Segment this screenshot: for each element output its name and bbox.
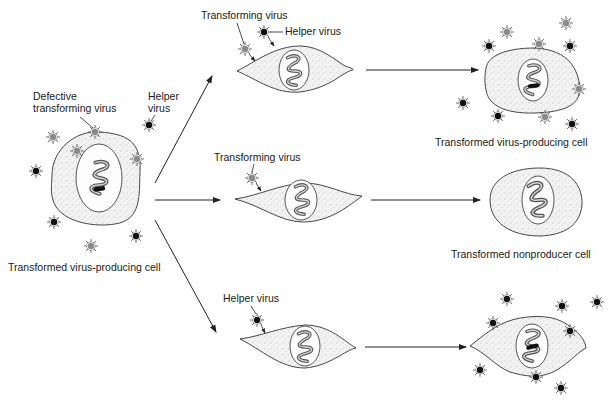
label-top-result: Transformed virus-producing cell	[435, 136, 588, 148]
label-helper-line1: Helper	[148, 90, 179, 102]
label-defective: Defective	[33, 90, 77, 102]
top-transforming-virus	[238, 42, 252, 56]
middle-infected-cell	[235, 180, 362, 222]
bottom-result-cell	[470, 316, 586, 376]
label-top-helper: Helper virus	[285, 25, 341, 37]
label-bottom-helper: Helper virus	[223, 292, 279, 304]
label-source-cell: Transformed virus-producing cell	[8, 261, 161, 273]
bottom-helper-virus	[250, 313, 264, 327]
bottom-infected-cell	[240, 325, 356, 368]
label-transforming-virus: transforming virus	[33, 102, 116, 114]
top-infected-cell	[237, 46, 353, 92]
middle-transforming-virus	[245, 171, 259, 185]
label-middle-result: Transformed nonproducer cell	[451, 248, 591, 260]
top-helper-virus	[257, 25, 271, 39]
arrow-to-bottom	[155, 220, 216, 332]
diagram: Defective transforming virus Helper viru…	[0, 0, 608, 404]
label-middle-transforming: Transforming virus	[214, 151, 301, 163]
label-top-transforming: Transforming virus	[201, 9, 288, 21]
label-helper-line2: virus	[148, 102, 170, 114]
middle-result-cell	[490, 168, 582, 236]
top-result-cell	[485, 48, 580, 113]
source-cell	[51, 132, 140, 225]
